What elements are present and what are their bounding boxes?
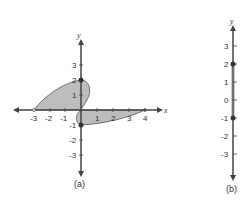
point-0-neg1 (79, 123, 84, 128)
panel-a-caption: (a) (74, 179, 85, 189)
x-tick-label: -2 (45, 114, 53, 123)
axis-label: y (229, 17, 234, 26)
tick-label: 3 (224, 42, 229, 51)
tick-label: -1 (221, 114, 229, 123)
y-tick-label: -2 (69, 136, 77, 145)
panel-b-caption: (b) (226, 184, 237, 194)
x-tick-label: 1 (95, 114, 100, 123)
point-neg3-0 (33, 109, 36, 112)
y-tick-label: 2 (72, 76, 77, 85)
point-4-0 (144, 109, 147, 112)
y-tick-label: 1 (72, 91, 77, 100)
tick-label: 2 (224, 60, 229, 69)
endpoint-2 (231, 62, 236, 67)
tick-label: -2 (221, 132, 229, 141)
point-0-2 (79, 78, 84, 83)
x-tick-label: -1 (60, 114, 68, 123)
x-tick-label: -3 (30, 114, 38, 123)
x-tick-label: 3 (127, 114, 132, 123)
panel-b: 3 2 1 0 -1 -2 -3 y (b) (221, 17, 237, 194)
figure-canvas: -3 -2 -1 1 2 3 4 3 2 1 -1 -2 -3 x y (a) (0, 0, 252, 207)
panel-a: -3 -2 -1 1 2 3 4 3 2 1 -1 -2 -3 x y (a) (16, 31, 168, 189)
x-tick-label: 4 (143, 114, 148, 123)
endpoint-neg1 (231, 116, 236, 121)
y-tick-label: 3 (72, 61, 77, 70)
y-tick-label: -3 (69, 151, 77, 160)
x-tick-label: 2 (111, 114, 116, 123)
tick-label: 1 (224, 78, 229, 87)
x-axis-label: x (163, 106, 168, 115)
y-tick-label: -1 (69, 121, 77, 130)
y-axis-label: y (76, 31, 81, 40)
tick-label: -3 (221, 150, 229, 159)
tick-label: 0 (224, 96, 229, 105)
